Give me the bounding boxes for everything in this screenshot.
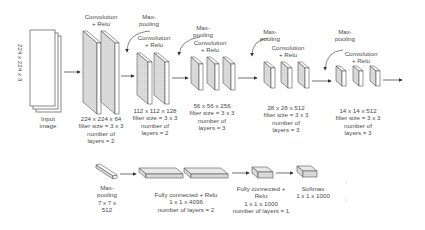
conv3-op-label: Convolution + Relu bbox=[185, 39, 235, 54]
conv1-op-line1: Convolution bbox=[76, 13, 126, 20]
softmax-line2: 1 x 1 x 1000 bbox=[290, 192, 336, 199]
conv1-layers-line2: layers = 2 bbox=[72, 137, 130, 144]
fc2-line3: 1 x 1 x 1000 bbox=[229, 200, 293, 207]
fc2-label: Fully connected + Relu 1 x 1 x 1000 numb… bbox=[229, 185, 293, 215]
softmax-label: Softmax 1 x 1 x 1000 bbox=[290, 185, 336, 200]
faint-mark bbox=[345, 181, 347, 184]
conv4-info: 28 x 28 x 512 filter size = 3 x 3 number… bbox=[257, 104, 315, 134]
conv1-size: 224 x 224 x 64 bbox=[72, 115, 130, 122]
pool5-line1: Max- bbox=[330, 28, 360, 35]
softmax-block bbox=[297, 166, 317, 177]
input-label-line2: image bbox=[30, 122, 66, 129]
maxpool-final-line2: pooling bbox=[92, 191, 122, 198]
conv-block-4 bbox=[264, 62, 309, 88]
conv2-op-line1: Convolution bbox=[129, 34, 179, 41]
pool3-line1: Max- bbox=[188, 24, 218, 31]
fc1-block bbox=[139, 168, 228, 178]
conv-block-3 bbox=[191, 57, 235, 90]
pool2-line2: pooling bbox=[134, 20, 164, 27]
conv3-layers-line1: number of bbox=[183, 117, 241, 124]
input-image-stack bbox=[30, 30, 61, 112]
input-dimension-label: 224 x 224 x 3 bbox=[17, 44, 24, 81]
pool5-label: Max- pooling bbox=[330, 28, 360, 43]
conv3-op-line2: + Relu bbox=[185, 46, 235, 53]
pool3-line2: pooling bbox=[188, 31, 218, 38]
fc1-line3: number of layers = 2 bbox=[144, 206, 228, 213]
conv5-layers-line2: layers = 3 bbox=[329, 129, 387, 136]
pool2-line1: Max- bbox=[134, 13, 164, 20]
conv4-layers-line2: layers = 3 bbox=[257, 126, 315, 133]
fc1-line2: 1 x 1 x 4096 bbox=[144, 198, 228, 205]
conv2-op-label: Convolution + Relu bbox=[129, 34, 179, 49]
conv5-layers-line1: number of bbox=[329, 122, 387, 129]
conv5-op-line2: + Relu bbox=[336, 57, 386, 64]
softmax-line1: Softmax bbox=[290, 185, 336, 192]
pool4-label: Max- pooling bbox=[255, 28, 285, 43]
conv3-op-line1: Convolution bbox=[185, 39, 235, 46]
conv4-filter: filter size = 3 x 3 bbox=[257, 111, 315, 118]
conv2-op-line2: + Relu bbox=[129, 41, 179, 48]
conv2-filter: filter size = 3 x 3 bbox=[126, 114, 184, 121]
fc2-block bbox=[252, 167, 273, 178]
input-image-label: Input image bbox=[30, 115, 66, 130]
conv5-op-label: Convolution + Relu bbox=[336, 50, 386, 65]
conv-block-1 bbox=[83, 31, 119, 114]
fc1-line1: Fully connected + Relu bbox=[144, 191, 228, 198]
conv1-filter: filter size = 3 x 3 bbox=[72, 122, 130, 129]
maxpool-final-label: Max- pooling 7 x 7 x 512 bbox=[92, 184, 122, 214]
fc1-label: Fully connected + Relu 1 x 1 x 4096 numb… bbox=[144, 191, 228, 213]
pool5-line2: pooling bbox=[330, 35, 360, 42]
fc2-line4: number of layers = 1 bbox=[229, 207, 293, 214]
conv2-size: 112 x 112 x 128 bbox=[126, 107, 184, 114]
conv4-op-label: Convolution + Relu bbox=[263, 44, 313, 59]
maxpool-final-block bbox=[96, 164, 117, 179]
pool3-label: Max- pooling bbox=[188, 24, 218, 39]
conv4-layers-line1: number of bbox=[257, 119, 315, 126]
maxpool-final-line4: 512 bbox=[92, 206, 122, 213]
conv4-op-line2: + Relu bbox=[263, 51, 313, 58]
maxpool-final-line1: Max- bbox=[92, 184, 122, 191]
conv5-size: 14 x 14 x 512 bbox=[329, 107, 387, 114]
fc2-line1: Fully connected + bbox=[229, 185, 293, 192]
conv-block-5 bbox=[336, 66, 380, 86]
fc2-line2: Relu bbox=[229, 192, 293, 199]
pool4-line2: pooling bbox=[255, 35, 285, 42]
conv5-filter: filter size = 3 x 3 bbox=[329, 114, 387, 121]
input-label-line1: Input bbox=[30, 115, 66, 122]
conv1-layers-line1: number of bbox=[72, 130, 130, 137]
conv1-info: 224 x 224 x 64 filter size = 3 x 3 numbe… bbox=[72, 115, 130, 145]
conv1-op-line2: + Relu bbox=[76, 20, 126, 27]
maxpool-final-line3: 7 x 7 x bbox=[92, 199, 122, 206]
conv2-info: 112 x 112 x 128 filter size = 3 x 3 numb… bbox=[126, 107, 184, 137]
conv1-op-label: Convolution + Relu bbox=[76, 13, 126, 28]
conv5-op-line1: Convolution bbox=[336, 50, 386, 57]
faint-mark bbox=[345, 199, 347, 202]
conv3-size: 56 x 56 x 256 bbox=[183, 102, 241, 109]
conv2-layers-line2: layers = 2 bbox=[126, 129, 184, 136]
conv5-info: 14 x 14 x 512 filter size = 3 x 3 number… bbox=[329, 107, 387, 137]
conv2-layers-line1: number of bbox=[126, 122, 184, 129]
conv3-filter: filter size = 3 x 3 bbox=[183, 109, 241, 116]
conv3-layers-line2: layers = 3 bbox=[183, 124, 241, 131]
conv3-info: 56 x 56 x 256 filter size = 3 x 3 number… bbox=[183, 102, 241, 132]
conv4-size: 28 x 28 x 512 bbox=[257, 104, 315, 111]
conv-block-2 bbox=[137, 53, 169, 104]
pool2-label: Max- pooling bbox=[134, 13, 164, 28]
pool4-line1: Max- bbox=[255, 28, 285, 35]
conv4-op-line1: Convolution bbox=[263, 44, 313, 51]
